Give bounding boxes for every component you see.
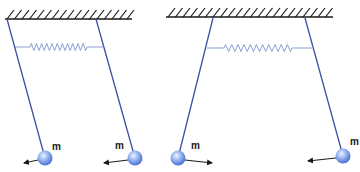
pendulum-bob <box>171 151 186 166</box>
pendulum-bob <box>128 151 143 166</box>
hatch-mark <box>183 8 190 17</box>
hatch-mark <box>311 8 318 17</box>
pendulum: m <box>96 19 143 166</box>
hatch-mark <box>266 8 273 17</box>
ceiling-hatch <box>7 10 134 19</box>
pendulum-rod <box>178 18 213 158</box>
velocity-arrow-icon <box>24 160 38 163</box>
pendulum: m <box>305 18 359 164</box>
hatch-mark <box>127 10 134 19</box>
hatch-mark <box>15 10 22 19</box>
pendulum-bob <box>336 149 351 164</box>
pendulum: m <box>7 19 61 166</box>
hatch-mark <box>37 10 44 19</box>
hatch-mark <box>213 8 220 17</box>
hatch-mark <box>206 8 213 17</box>
hatch-mark <box>105 10 112 19</box>
hatch-mark <box>281 8 288 17</box>
mass-label: m <box>115 140 124 151</box>
coupled-pendulum-diagram: mmmm <box>0 0 360 172</box>
spring-icon <box>15 44 103 51</box>
hatch-mark <box>7 10 14 19</box>
hatch-mark <box>22 10 29 19</box>
hatch-mark <box>236 8 243 17</box>
hatch-mark <box>303 8 310 17</box>
hatch-mark <box>273 8 280 17</box>
hatch-mark <box>52 10 59 19</box>
hatch-mark <box>243 8 250 17</box>
pendulum-rod <box>96 19 135 158</box>
hatch-mark <box>221 8 228 17</box>
hatch-mark <box>60 10 67 19</box>
hatch-mark <box>67 10 74 19</box>
hatch-mark <box>82 10 89 19</box>
hatch-mark <box>97 10 104 19</box>
velocity-arrow-icon <box>104 160 128 163</box>
hatch-mark <box>228 8 235 17</box>
hatch-mark <box>45 10 52 19</box>
velocity-arrow-icon <box>308 158 336 161</box>
pendulum-bob <box>38 151 53 166</box>
pendulum-rod <box>7 19 45 158</box>
system-anti-phase-right: mm <box>166 8 359 166</box>
mass-label: m <box>191 140 200 151</box>
hatch-mark <box>112 10 119 19</box>
pendulum: m <box>171 18 214 166</box>
hatch-mark <box>75 10 82 19</box>
hatch-mark <box>191 8 198 17</box>
hatch-mark <box>90 10 97 19</box>
hatch-mark <box>251 8 258 17</box>
ceiling-hatch <box>168 8 333 17</box>
velocity-arrow-icon <box>185 160 212 163</box>
hatch-mark <box>288 8 295 17</box>
spring-icon <box>207 45 312 52</box>
mass-label: m <box>350 136 359 147</box>
mass-label: m <box>52 141 61 152</box>
hatch-mark <box>198 8 205 17</box>
hatch-mark <box>326 8 333 17</box>
hatch-mark <box>30 10 37 19</box>
hatch-mark <box>296 8 303 17</box>
system-in-phase-left: mm <box>5 10 143 166</box>
hatch-mark <box>258 8 265 17</box>
hatch-mark <box>176 8 183 17</box>
pendulum-rod <box>305 18 343 156</box>
hatch-mark <box>120 10 127 19</box>
hatch-mark <box>318 8 325 17</box>
hatch-mark <box>168 8 175 17</box>
